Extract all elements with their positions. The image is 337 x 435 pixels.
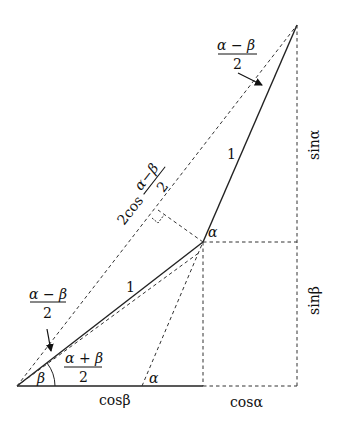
trig-diagram: 1 1 α α β cosβ cosα sinα sinβ α − β 2 α … <box>0 0 337 435</box>
label-one-upper: 1 <box>227 146 236 162</box>
beta-arc <box>47 363 55 386</box>
sum-frac-num: α + β <box>65 350 103 366</box>
label-alpha-mid: α <box>208 224 218 240</box>
left-frac-num: α − β <box>29 286 67 302</box>
diag-frac-den: 2 <box>153 178 171 195</box>
left-frac-den: 2 <box>43 305 52 321</box>
label-alpha-base: α <box>149 370 159 386</box>
left-angle-arrow <box>47 329 51 351</box>
label-sin-beta: sinβ <box>306 286 322 315</box>
sum-frac-den: 2 <box>79 369 88 385</box>
diagonal-2cos <box>17 25 297 386</box>
label-cos-beta: cosβ <box>99 392 131 408</box>
label-one-lower: 1 <box>126 279 135 295</box>
label-sin-alpha: sinα <box>306 129 322 160</box>
alpha-slant <box>142 242 203 386</box>
top-frac-den: 2 <box>233 56 242 72</box>
unit-segment-upper <box>203 25 297 242</box>
diagonal-2cos-label: 2cos α−β 2 <box>107 156 179 234</box>
top-angle-arrow <box>238 73 262 85</box>
perpendicular-drop <box>158 210 203 242</box>
right-angle-marker <box>152 215 164 223</box>
two-cos-text: 2cos <box>114 192 147 227</box>
label-beta: β <box>36 370 45 386</box>
top-frac-num: α − β <box>217 37 255 53</box>
label-cos-alpha: cosα <box>230 394 263 410</box>
